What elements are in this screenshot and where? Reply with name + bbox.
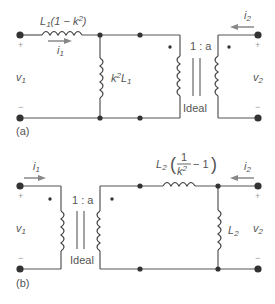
junction-dot	[137, 32, 142, 37]
arrow-head	[38, 175, 46, 181]
terminal-v2-plus[interactable]	[254, 31, 261, 38]
polarity-dot	[110, 197, 113, 200]
series-inductor-a	[42, 32, 82, 36]
shunt-inductor-a-label: k2L1	[111, 71, 132, 86]
v1-plus-sign: +	[18, 40, 23, 50]
junction-dot	[137, 115, 142, 120]
series-inductor-b-label: L2 ( 1 k2 − 1 )	[156, 151, 217, 177]
shunt-inductor-b-label: L2	[228, 224, 239, 238]
voltage-label-v1: v1	[16, 71, 26, 85]
terminal-v2-plus[interactable]	[254, 182, 261, 189]
junction-dot	[215, 266, 220, 271]
polarity-dot	[227, 45, 230, 48]
transformer-secondary-coil-a	[215, 56, 218, 96]
current-label-i2: i2	[244, 160, 251, 174]
svg-text:k2: k2	[177, 164, 188, 177]
junction-dot	[215, 183, 220, 188]
arrow-head	[64, 38, 72, 44]
voltage-label-v2: v2	[253, 222, 264, 236]
circuit-a: L1(1 − k2) i1 k2L1 1 : a Ideal + − v1 + …	[16, 9, 264, 137]
v1-plus-sign: +	[18, 191, 23, 201]
transformer-ratio-a: 1 : a	[190, 40, 212, 52]
junction-dot	[137, 266, 142, 271]
voltage-label-v1: v1	[16, 222, 26, 236]
svg-text:1: 1	[181, 151, 187, 163]
v1-minus-sign: −	[18, 253, 23, 263]
v2-minus-sign: −	[255, 102, 260, 112]
arrow-head	[230, 175, 238, 181]
current-label-i2: i2	[244, 9, 251, 23]
junction-dot	[97, 115, 102, 120]
terminal-v2-minus[interactable]	[254, 265, 261, 272]
terminal-v2-minus[interactable]	[254, 114, 261, 121]
caption-a: (a)	[16, 125, 29, 137]
v1-minus-sign: −	[18, 102, 23, 112]
transformer-primary-coil-a	[177, 56, 180, 96]
series-inductor-b	[163, 183, 195, 187]
arrow-head	[230, 24, 238, 30]
transformer-type-a: Ideal	[183, 102, 207, 114]
caption-b: (b)	[16, 277, 29, 289]
transformer-primary-coil-b	[61, 211, 64, 251]
shunt-inductor-b	[218, 210, 221, 250]
polarity-dot	[48, 197, 51, 200]
terminal-v1-minus[interactable]	[16, 114, 23, 121]
current-label-i1: i1	[33, 160, 40, 174]
voltage-label-v2: v2	[253, 71, 264, 85]
terminal-v1-plus[interactable]	[16, 182, 23, 189]
svg-text:L2: L2	[156, 158, 167, 172]
terminal-v1-plus[interactable]	[16, 31, 23, 38]
v2-plus-sign: +	[255, 40, 260, 50]
v2-plus-sign: +	[255, 191, 260, 201]
v2-minus-sign: −	[255, 253, 260, 263]
transformer-ratio-b: 1 : a	[72, 194, 94, 206]
shunt-inductor-a	[100, 58, 103, 98]
circuit-diagram: L1(1 − k2) i1 k2L1 1 : a Ideal + − v1 + …	[0, 0, 275, 304]
svg-text:(: (	[170, 154, 176, 174]
transformer-type-b: Ideal	[70, 254, 94, 266]
circuit-b: i1 1 : a Ideal L2 ( 1 k2 − 1 ) L2 + − v1…	[16, 151, 264, 289]
series-inductor-a-label: L1(1 − k2)	[40, 14, 87, 29]
polarity-dot	[168, 45, 171, 48]
terminal-v1-minus[interactable]	[16, 265, 23, 272]
transformer-secondary-coil-b	[97, 211, 100, 251]
svg-text:): )	[211, 154, 217, 174]
junction-dot	[97, 32, 102, 37]
svg-text:− 1: − 1	[193, 158, 209, 170]
current-label-i1: i1	[57, 44, 64, 58]
junction-dot	[137, 183, 142, 188]
